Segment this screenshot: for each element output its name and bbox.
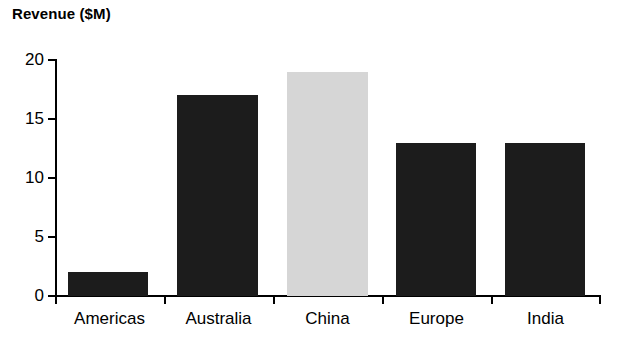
bar-india[interactable]: [505, 143, 585, 296]
y-axis-tick-10: [48, 177, 57, 179]
y-axis-label-15-wrap: 15: [0, 110, 44, 127]
bar-americas[interactable]: [68, 272, 148, 296]
y-axis-label-15: 15: [0, 110, 44, 127]
y-axis-label-5: 5: [0, 228, 44, 245]
x-axis-label-australia: Australia: [164, 309, 273, 329]
x-axis-tick-4: [491, 295, 493, 304]
x-axis-label-europe: Europe: [382, 309, 491, 329]
y-axis-label-20-wrap: 20: [0, 51, 44, 68]
y-axis-label-0: 0: [0, 287, 44, 304]
bar-china[interactable]: [287, 72, 368, 296]
x-axis-label-china: China: [273, 309, 382, 329]
y-axis-tick-15: [48, 118, 57, 120]
bar-australia[interactable]: [177, 95, 258, 296]
plot-area: 20 15 10 5 0 Americas Australia China Eu…: [0, 0, 619, 345]
x-axis-tick-0: [55, 295, 57, 304]
x-axis-label-india: India: [491, 309, 600, 329]
y-axis-label-0-wrap: 0: [0, 287, 44, 304]
x-axis-tick-2: [273, 295, 275, 304]
x-axis-label-americas: Americas: [55, 309, 164, 329]
y-axis-tick-5: [48, 236, 57, 238]
bar-europe[interactable]: [396, 143, 476, 296]
y-axis-label-20: 20: [0, 51, 44, 68]
y-axis-label-5-wrap: 5: [0, 228, 44, 245]
x-axis-tick-5: [599, 295, 601, 304]
y-axis-label-10: 10: [0, 169, 44, 186]
y-axis-tick-20: [48, 59, 57, 61]
bar-chart: Revenue ($M) 20 15 10 5 0: [0, 0, 619, 345]
x-axis-tick-3: [382, 295, 384, 304]
y-axis-label-10-wrap: 10: [0, 169, 44, 186]
x-axis-tick-1: [164, 295, 166, 304]
